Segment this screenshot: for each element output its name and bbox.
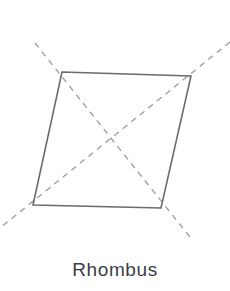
diagonal-top-left-to-bottom-right [35,43,190,237]
rhombus-diagram [0,0,230,291]
shape-caption: Rhombus [0,259,230,281]
rhombus-figure: Rhombus [0,0,230,291]
